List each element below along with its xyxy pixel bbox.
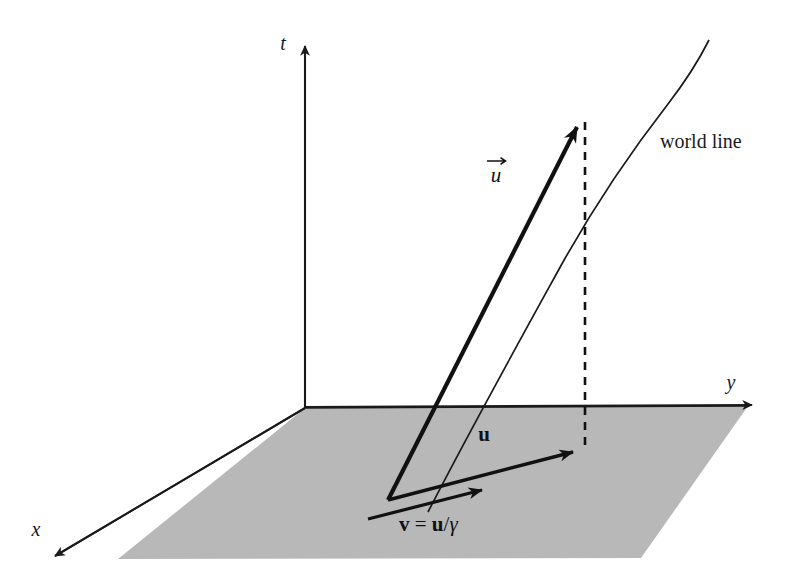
world-line-label: world line [660,130,742,152]
v-equation-part-u: u [432,512,444,536]
v-equation-part-gamma: γ [449,512,458,536]
spatial-plane [118,406,748,559]
figure-root: t y x world line u u v = u/γ [0,0,794,588]
four-velocity-label: u [491,163,502,187]
v-equation-label: v = u/γ [399,512,458,536]
v-equation-part-v: v [399,512,410,536]
spacetime-diagram: t y x world line u u v = u/γ [0,0,794,588]
four-velocity-label-group: u [487,158,506,187]
axis-label-x: x [31,518,41,540]
axis-label-t: t [280,32,286,54]
axis-label-y: y [725,371,736,394]
u-in-plane-label: u [478,422,490,446]
v-equation-part-equals: = [410,512,432,536]
